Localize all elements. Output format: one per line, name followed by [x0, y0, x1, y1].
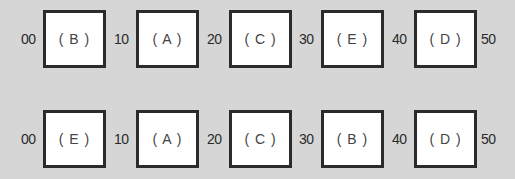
sequence-row-2: 00 ( E ) 10 ( A ) 20 ( C ) 30 ( B ) 40 (…	[0, 110, 515, 168]
box-label: ( E )	[337, 31, 368, 47]
sequence-box: ( C )	[229, 110, 292, 168]
tick-label: 40	[392, 110, 407, 168]
sequence-box: ( B )	[43, 10, 106, 68]
tick-label: 30	[299, 110, 314, 168]
sequence-box: ( A )	[136, 110, 199, 168]
tick-label: 50	[481, 10, 496, 68]
box-label: ( C )	[244, 131, 276, 147]
box-label: ( E )	[59, 131, 90, 147]
sequence-box: ( D )	[414, 110, 477, 168]
box-label: ( D )	[429, 131, 461, 147]
tick-label: 30	[299, 10, 314, 68]
tick-label: 00	[21, 10, 36, 68]
tick-label: 10	[114, 110, 129, 168]
box-label: ( C )	[244, 31, 276, 47]
tick-label: 50	[481, 110, 496, 168]
box-label: ( B )	[337, 131, 368, 147]
tick-label: 40	[392, 10, 407, 68]
box-label: ( B )	[59, 31, 90, 47]
tick-label: 20	[207, 10, 222, 68]
sequence-box: ( E )	[321, 10, 384, 68]
box-label: ( A )	[153, 31, 183, 47]
sequence-box: ( C )	[229, 10, 292, 68]
sequence-row-1: 00 ( B ) 10 ( A ) 20 ( C ) 30 ( E ) 40 (…	[0, 10, 515, 68]
sequence-box: ( E )	[43, 110, 106, 168]
sequence-box: ( B )	[321, 110, 384, 168]
tick-label: 10	[114, 10, 129, 68]
sequence-box: ( A )	[136, 10, 199, 68]
box-label: ( D )	[429, 31, 461, 47]
box-label: ( A )	[153, 131, 183, 147]
tick-label: 20	[207, 110, 222, 168]
sequence-box: ( D )	[414, 10, 477, 68]
tick-label: 00	[21, 110, 36, 168]
